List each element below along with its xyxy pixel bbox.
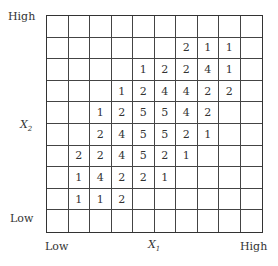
- grid-cell: 4: [198, 59, 220, 81]
- grid-cell: [47, 210, 69, 232]
- grid-cell: 2: [176, 124, 198, 146]
- grid-cell: [47, 167, 69, 189]
- grid-cell: [241, 167, 263, 189]
- y-axis-label: X2: [20, 118, 32, 133]
- grid-cell: [219, 189, 241, 211]
- grid-cell: 1: [112, 81, 134, 103]
- grid-cell: [90, 81, 112, 103]
- grid-cell: [133, 16, 155, 38]
- grid-cell: [112, 16, 134, 38]
- grid-cell: [241, 38, 263, 60]
- grid-cell: [155, 210, 177, 232]
- grid-cell: [198, 189, 220, 211]
- grid-cell: [112, 59, 134, 81]
- grid-cell: 1: [219, 38, 241, 60]
- x-axis-high-label: High: [240, 240, 267, 253]
- grid-cell: 2: [198, 102, 220, 124]
- grid-cell: [47, 81, 69, 103]
- grid-cell: 2: [112, 102, 134, 124]
- grid-cell: [219, 210, 241, 232]
- grid-cell: [198, 210, 220, 232]
- grid-cell: [219, 167, 241, 189]
- grid-cell: [241, 124, 263, 146]
- grid-cell: [219, 102, 241, 124]
- grid-cell: 1: [198, 124, 220, 146]
- grid-cell: 2: [90, 124, 112, 146]
- grid-cell: [112, 210, 134, 232]
- grid-cell: [241, 59, 263, 81]
- frequency-grid: 2111224112442212554224552122452114221112: [46, 15, 263, 233]
- grid-cell: 2: [90, 146, 112, 168]
- grid-cell: 2: [133, 81, 155, 103]
- grid-cell: [133, 210, 155, 232]
- grid-cell: [219, 16, 241, 38]
- grid-cell: 4: [112, 146, 134, 168]
- x-axis-low-label: Low: [45, 240, 68, 253]
- grid-cell: [69, 102, 91, 124]
- grid-cell: [241, 81, 263, 103]
- grid-cell: [133, 189, 155, 211]
- x-axis-label: X1: [148, 238, 160, 253]
- grid-cell: 5: [133, 102, 155, 124]
- grid-cell: 2: [112, 189, 134, 211]
- grid-cell: 4: [112, 124, 134, 146]
- grid-cell: [219, 124, 241, 146]
- grid-cell: [155, 16, 177, 38]
- grid-cell: 4: [90, 167, 112, 189]
- grid-cell: 2: [176, 59, 198, 81]
- grid-cell: 5: [133, 146, 155, 168]
- grid-cell: 4: [176, 81, 198, 103]
- grid-cell: [69, 124, 91, 146]
- x-axis-label-var: X: [148, 238, 156, 251]
- grid-cell: 2: [133, 167, 155, 189]
- grid-cell: 2: [69, 146, 91, 168]
- grid-cell: 5: [155, 124, 177, 146]
- grid-cell: [47, 102, 69, 124]
- grid-cell: 1: [219, 59, 241, 81]
- grid-cell: [47, 146, 69, 168]
- grid-cell: [155, 189, 177, 211]
- grid-cell: 4: [176, 102, 198, 124]
- grid-cell: [69, 38, 91, 60]
- grid-cell: [47, 16, 69, 38]
- y-axis-label-var: X: [20, 118, 28, 131]
- grid-cell: 1: [90, 189, 112, 211]
- grid-cell: [155, 38, 177, 60]
- grid-cell: 1: [69, 167, 91, 189]
- grid-cell: [176, 189, 198, 211]
- x-axis-label-sub: 1: [156, 245, 160, 253]
- grid-cell: 2: [155, 59, 177, 81]
- grid-cell: 4: [155, 81, 177, 103]
- grid-cell: [69, 16, 91, 38]
- grid-cell: [69, 210, 91, 232]
- grid-cell: 2: [219, 81, 241, 103]
- grid-cell: [47, 124, 69, 146]
- grid-cell: 1: [176, 146, 198, 168]
- grid-cell: [241, 16, 263, 38]
- grid-cell: [90, 16, 112, 38]
- grid-cell: [69, 81, 91, 103]
- grid-cell: [176, 210, 198, 232]
- grid-cell: [198, 146, 220, 168]
- grid-cell: [241, 102, 263, 124]
- grid-cell: [198, 167, 220, 189]
- grid-cell: 2: [112, 167, 134, 189]
- y-axis-high-label: High: [8, 10, 35, 23]
- grid-cell: [133, 38, 155, 60]
- grid-cell: [47, 38, 69, 60]
- y-axis-label-sub: 2: [28, 125, 32, 133]
- grid-cell: 2: [155, 146, 177, 168]
- grid-cell: 1: [155, 167, 177, 189]
- grid-cell: 5: [133, 124, 155, 146]
- y-axis-low-label: Low: [10, 212, 33, 225]
- grid-cell: 1: [90, 102, 112, 124]
- grid-cell: [176, 16, 198, 38]
- grid-cell: 1: [69, 189, 91, 211]
- grid-cell: 1: [133, 59, 155, 81]
- grid-cell: [90, 59, 112, 81]
- grid-cell: [90, 38, 112, 60]
- grid-cell: [241, 210, 263, 232]
- grid-cell: [176, 167, 198, 189]
- grid-cell: [241, 189, 263, 211]
- grid-cell: [69, 59, 91, 81]
